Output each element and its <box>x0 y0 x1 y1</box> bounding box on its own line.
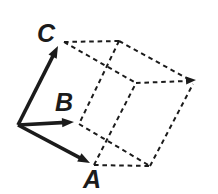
vector-c-label: C <box>37 19 56 47</box>
dashed-edge-mid-to-far <box>136 81 187 83</box>
vector-b-label: B <box>55 88 73 116</box>
vector-a-arrowhead <box>77 153 90 163</box>
vector-labels-group: A B C <box>37 19 101 193</box>
vector-c-shaft <box>18 53 54 125</box>
dashed-edge-upper-left-to-mid <box>64 42 136 83</box>
dashed-edges-group <box>64 41 196 166</box>
dashed-edge-bottom-edge <box>94 165 150 166</box>
vector-a-shaft <box>18 125 83 159</box>
vector-c-arrowhead <box>49 46 59 59</box>
dashed-edge-top-mid-to-far <box>119 41 190 80</box>
figure-canvas: A B C <box>0 0 218 194</box>
parallelepiped-figure: A B C <box>0 0 218 194</box>
vector-a-label: A <box>82 165 101 193</box>
dashed-edge-bottom-to-far <box>150 84 193 166</box>
vector-b-arrowhead <box>62 118 74 127</box>
dashed-edge-a-vertex-to-mid <box>94 83 136 165</box>
dashed-edge-b-vertex-to-bottom <box>79 124 150 166</box>
vector-b-shaft <box>18 122 66 125</box>
dashed-edge-top-mid-to-b-vertex <box>79 41 119 124</box>
dashed-edge-top-edge <box>64 41 119 42</box>
dashed-edge-arrowhead <box>186 77 196 85</box>
